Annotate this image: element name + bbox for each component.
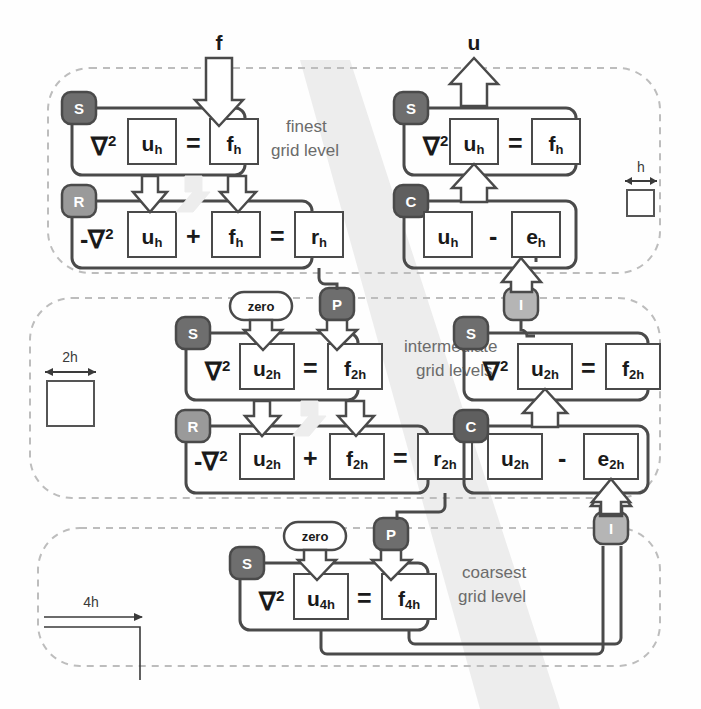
- level-label-finest-line2: grid level: [271, 141, 339, 160]
- badge-label: R: [74, 193, 85, 210]
- arrow-f-to-residual-l1: [220, 176, 256, 212]
- laplacian-op-l1l: ∇2: [90, 132, 116, 160]
- neg-laplacian-op-l1l: -∇2: [80, 225, 114, 253]
- scale-label-2h: 2h: [62, 349, 78, 365]
- zero-bubble-l3: zero: [284, 522, 346, 550]
- arrow-I-upper-out: [502, 258, 541, 292]
- laplacian-op-l3: ∇2: [258, 587, 284, 615]
- plus-op-l2l: +: [303, 444, 318, 472]
- badge-label: S: [188, 325, 198, 342]
- arrow-shadow-hint-l1: [176, 176, 210, 212]
- badge-label: S: [406, 100, 416, 117]
- zero-label: zero: [248, 299, 275, 314]
- badge-prolong-l2[interactable]: P: [320, 288, 354, 320]
- zero-bubble-l2: zero: [230, 292, 292, 320]
- badge-smooth-l2-left[interactable]: S: [176, 317, 210, 349]
- badge-correct-l2-right[interactable]: C: [454, 410, 488, 442]
- zero-label: zero: [302, 529, 329, 544]
- minus-op-l1r: -: [489, 222, 497, 250]
- badge-restrict-l1-left[interactable]: R: [62, 185, 96, 217]
- arrow-into-e2h: [592, 479, 630, 514]
- plus-op-l1l: +: [186, 222, 201, 250]
- badge-label: I: [519, 296, 523, 313]
- level-label-intermediate-line2: grid levels: [416, 361, 493, 380]
- badge-label: R: [188, 418, 199, 435]
- badge-label: S: [242, 555, 252, 572]
- scale-label-4h: 4h: [83, 594, 99, 610]
- badge-label: C: [466, 418, 477, 435]
- badge-smooth-l1-right[interactable]: S: [394, 92, 428, 124]
- laplacian-op-l2r: ∇2: [482, 357, 508, 385]
- arrow-u-to-residual-l2: [245, 401, 280, 436]
- level-label-coarsest-line2: grid level: [458, 587, 526, 606]
- connector-rh-to-P: [319, 268, 337, 290]
- badge-restrict-l2-left[interactable]: R: [176, 410, 210, 442]
- badge-smooth-l3[interactable]: S: [230, 547, 264, 579]
- equals-op2-l1l: =: [270, 222, 285, 250]
- laplacian-op-l2l: ∇2: [204, 357, 230, 385]
- arrow-u-to-residual-l1: [133, 176, 167, 212]
- badge-label: P: [386, 526, 396, 543]
- arrow-f-to-residual-l2: [338, 401, 374, 436]
- arrow-shadow-hint-l2: [292, 401, 326, 436]
- badge-label: S: [466, 325, 476, 342]
- scale-indicator-4h: 4h: [44, 594, 143, 680]
- laplacian-op-l1r: ∇2: [422, 132, 448, 160]
- badge-smooth-l2-right[interactable]: S: [454, 317, 488, 349]
- level-label-coarsest-line1: coarsest: [462, 563, 527, 582]
- input-label-f: f: [216, 31, 224, 54]
- level-label-finest-line1: finest: [286, 117, 327, 136]
- scale-indicator-2h: 2h: [45, 349, 96, 426]
- badge-label: C: [406, 193, 417, 210]
- equals-op-l1r: =: [508, 129, 523, 157]
- scale-indicator-h: h: [625, 159, 657, 216]
- badge-label: S: [74, 100, 84, 117]
- badge-label: P: [332, 296, 342, 313]
- equals-op-l1l: =: [186, 129, 201, 157]
- arrow-correct-to-smooth-l2: [523, 389, 567, 427]
- output-label-u: u: [468, 31, 481, 54]
- diagram-canvas: finest grid level intermediate grid leve…: [0, 0, 701, 709]
- multigrid-diagram: finest grid level intermediate grid leve…: [0, 0, 701, 709]
- minus-op-l2r: -: [558, 444, 566, 472]
- arrow-correct-to-smooth-l1: [452, 164, 496, 202]
- arrow-output-u: [450, 58, 498, 106]
- neg-laplacian-op-l2l: -∇2: [194, 447, 228, 475]
- badge-smooth-l1-left[interactable]: S: [62, 92, 96, 124]
- equals-op2-l2l: =: [393, 444, 408, 472]
- badge-label: I: [609, 520, 613, 537]
- scale-label-h: h: [637, 159, 645, 175]
- equals-op-l3: =: [357, 584, 372, 612]
- equals-op-l2r: =: [581, 354, 596, 382]
- badge-correct-l1-right[interactable]: C: [394, 185, 428, 217]
- equals-op-l2l: =: [303, 354, 318, 382]
- badge-prolong-l3[interactable]: P: [374, 518, 408, 550]
